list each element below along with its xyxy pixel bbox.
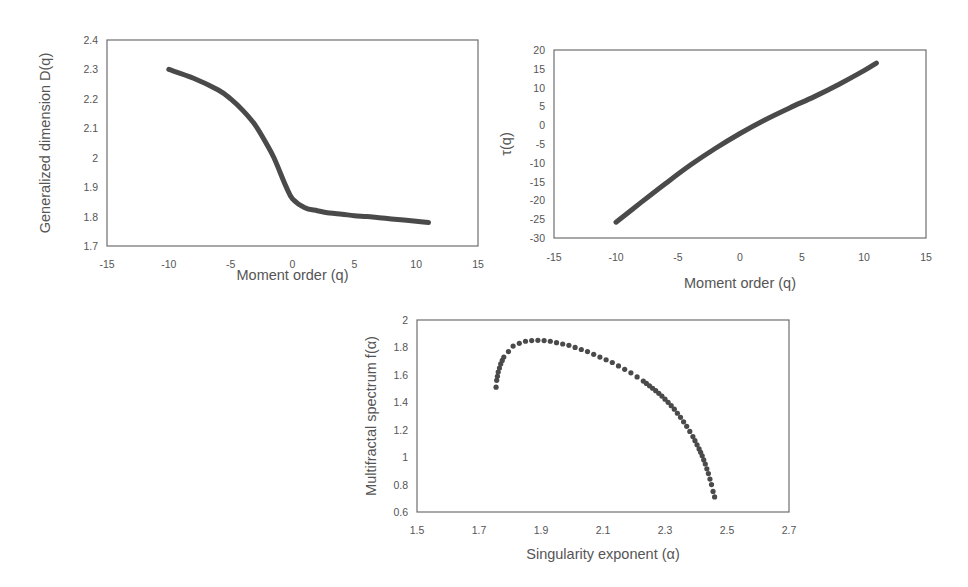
y-tick-label: 1.9 [83,181,98,193]
data-point [703,461,708,466]
y-tick-label: 0.6 [393,506,408,518]
data-point [684,424,689,429]
y-tick-label: 1.8 [83,211,98,223]
y-tick-label: 1.2 [393,424,408,436]
y-axis-label: τ(q) [498,132,514,155]
chart-tau: -15-10-5051015-30-25-20-15-10-505101520M… [498,44,932,291]
y-tick-label: 20 [533,44,545,56]
data-point [548,339,553,344]
y-tick-label: -5 [536,138,545,150]
data-series-points [493,338,717,500]
x-axis-label: Singularity exponent (α) [526,546,679,562]
data-point [506,349,511,354]
data-point [510,343,515,348]
x-tick-label: -10 [608,251,623,263]
data-point [501,354,506,359]
plot-frame [554,50,926,238]
data-point [604,357,609,362]
data-point [672,407,677,412]
x-tick-label: 1.9 [534,524,549,536]
data-point [523,339,528,344]
plot-frame [417,320,789,512]
y-tick-label: 5 [539,100,545,112]
data-point [687,429,692,434]
data-point [597,354,602,359]
y-tick-label: 1.7 [83,240,98,252]
y-tick-label: -20 [530,194,545,206]
data-point [493,385,498,390]
x-tick-label: -15 [99,258,114,270]
data-series-line [169,69,429,222]
y-tick-label: 2 [92,152,98,164]
data-point [535,338,540,343]
x-tick-label: 15 [472,258,484,270]
y-tick-label: 2.4 [83,34,98,46]
y-tick-label: -15 [530,176,545,188]
data-point [681,419,686,424]
x-tick-label: -5 [226,258,235,270]
data-series-line [616,63,876,222]
data-point [529,338,534,343]
chart-multifractal-spectrum: 1.51.71.92.12.32.52.70.60.811.21.41.61.8… [363,314,796,562]
x-tick-label: 2.3 [658,524,673,536]
data-point [675,411,680,416]
data-point [554,340,559,345]
data-point [566,343,571,348]
y-tick-label: 0.8 [393,479,408,491]
x-tick-label: 0 [737,251,743,263]
y-tick-label: 2 [402,314,408,326]
x-tick-label: 1.5 [410,524,425,536]
data-point [709,482,714,487]
y-tick-label: 0 [539,119,545,131]
y-tick-label: 1.8 [393,341,408,353]
x-tick-label: -15 [546,251,561,263]
figure: -15-10-50510151.71.81.922.12.22.32.4Mome… [0,0,968,587]
y-tick-label: -30 [530,232,545,244]
x-tick-label: 2.1 [596,524,611,536]
x-tick-label: -5 [673,251,682,263]
data-point [635,374,640,379]
data-point [678,415,683,420]
y-tick-label: 2.2 [83,93,98,105]
chart-generalized-dimension: -15-10-50510151.71.81.922.12.22.32.4Mome… [37,34,484,283]
data-point [710,489,715,494]
y-tick-label: 2.3 [83,63,98,75]
x-tick-label: 2.5 [720,524,735,536]
data-point [517,341,522,346]
data-point [542,338,547,343]
x-tick-label: 10 [858,251,870,263]
data-point [622,367,627,372]
data-point [704,466,709,471]
data-point [610,360,615,365]
plot-frame [107,40,478,246]
x-tick-label: 10 [410,258,422,270]
data-point [591,352,596,357]
data-point [579,347,584,352]
data-point [707,476,712,481]
y-tick-label: -10 [530,157,545,169]
y-axis-label: Generalized dimension D(q) [37,53,53,234]
data-point [585,349,590,354]
data-point [706,471,711,476]
x-axis-label: Moment order (q) [236,267,348,283]
x-tick-label: 2.7 [782,524,797,536]
y-tick-label: 1 [402,451,408,463]
x-tick-label: -10 [161,258,176,270]
data-point [616,363,621,368]
x-tick-label: 5 [351,258,357,270]
y-tick-label: 1.6 [393,369,408,381]
y-tick-label: 15 [533,63,545,75]
x-tick-label: 1.7 [472,524,487,536]
data-point [573,345,578,350]
y-tick-label: 10 [533,82,545,94]
x-axis-label: Moment order (q) [684,275,796,291]
y-axis-label: Multifractal spectrum f(α) [363,336,379,496]
y-tick-label: 2.1 [83,122,98,134]
x-tick-label: 15 [920,251,932,263]
data-point [712,494,717,499]
x-tick-label: 5 [799,251,805,263]
data-point [560,341,565,346]
y-tick-label: 1.4 [393,396,408,408]
y-tick-label: -25 [530,213,545,225]
data-point [628,370,633,375]
